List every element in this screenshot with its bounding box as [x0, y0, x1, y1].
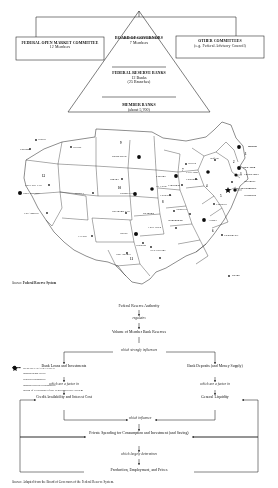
- pyramid-tier-board-of-governors: BOARD OF GOVERNORS 7 Members: [112, 36, 166, 45]
- map-city-pittsburgh: Pittsburgh: [186, 178, 198, 181]
- map-district-12: 12: [42, 174, 45, 178]
- flow-connector-which-largely-determines: which largely determines: [105, 452, 173, 456]
- map-city-denver: Denver: [75, 192, 84, 195]
- map-city-omaha: Omaha: [110, 178, 118, 181]
- map-source-label: Source:: [12, 281, 22, 285]
- map-city-seattle: Seattle: [38, 138, 46, 141]
- flow-node-bank-deposits-money-supply: Bank Deposits (and Money Supply): [181, 364, 249, 369]
- map-city-houston: Houston: [136, 244, 146, 247]
- map-district-3: 3: [240, 172, 242, 176]
- map-district-5: 5: [220, 194, 222, 198]
- map-city-charlotte: Charlotte: [216, 203, 227, 206]
- map-city-san-francisco: San Francisco: [23, 192, 40, 195]
- pyramid-tier-member-banks: MEMBER BANKS (about 5,700): [100, 103, 178, 112]
- textbook-figure-page: FEDERAL OPEN MARKET COMMITTEE 12 Members…: [0, 0, 278, 488]
- federal-reserve-banks-subtitle2: (25 Branches): [105, 80, 173, 85]
- map-city-new-orleans: New Orleans: [150, 249, 165, 252]
- flow-node-federal-reserve-authority: Federal Reserve Authority: [89, 304, 189, 309]
- figure-federal-reserve-structure: FEDERAL OPEN MARKET COMMITTEE 12 Members…: [0, 4, 278, 116]
- other-committees-subtitle: (e.g. Federal Advisory Council): [178, 44, 262, 49]
- figure-federal-reserve-district-map: Boston New York Philadelphia Cleveland R…: [0, 116, 278, 291]
- map-city-detroit: Detroit: [188, 162, 196, 165]
- flow-connector-which-are-a-factor-in-left: which are a factor in: [30, 382, 98, 386]
- map-city-los-angeles: Los Angeles: [24, 212, 39, 215]
- flow-connector-which-influence: which influence: [114, 416, 166, 420]
- map-city-helena: Helena: [73, 146, 81, 149]
- map-district-6: 6: [212, 229, 214, 233]
- map-city-cleveland: Cleveland: [186, 171, 198, 174]
- flow-source-line: Source: Adapted from the Board of Govern…: [12, 480, 114, 484]
- figure-monetary-policy-flowchart: Federal Reserve Authority regulates Volu…: [0, 296, 278, 488]
- flow-node-private-spending: Private Spending for Consumption and Inv…: [84, 431, 194, 436]
- board-of-governors-subtitle: 7 Members: [112, 41, 166, 46]
- us-map-outline: [0, 116, 278, 291]
- map-source-line: Source: Federal Reserve System: [12, 281, 56, 285]
- map-city-jacksonville: Jacksonville: [224, 234, 239, 237]
- map-city-atlanta: Atlanta: [208, 219, 217, 222]
- map-district-7: 7: [182, 168, 184, 172]
- flow-connector-regulates: regulates: [114, 316, 164, 320]
- map-city-boston: Boston: [248, 145, 257, 148]
- map-city-dallas: Dallas: [120, 232, 128, 235]
- map-district-2: 2: [233, 160, 235, 164]
- map-source-text: Federal Reserve System: [23, 281, 56, 285]
- fomc-subtitle: 12 Members: [18, 45, 102, 50]
- pyramid-lines: [0, 4, 278, 116]
- map-city-memphis: Memphis: [143, 212, 154, 215]
- fomc-box: FEDERAL OPEN MARKET COMMITTEE 12 Members: [18, 41, 102, 50]
- map-city-salt-lake-city: Salt Lake City: [25, 184, 42, 187]
- map-city-minneapolis: Minneapolis: [112, 155, 127, 158]
- map-city-oklahoma-city: Oklahoma City: [112, 210, 130, 213]
- flow-source-label: Source:: [12, 480, 22, 484]
- map-city-new-york: New York: [243, 166, 255, 169]
- map-city-buffalo: Buffalo: [210, 157, 219, 160]
- map-city-san-antonio: San Antonio: [116, 253, 131, 256]
- map-city-nashville: Nashville: [176, 208, 187, 211]
- map-city-cincinnati: Cincinnati: [168, 184, 180, 187]
- map-city-philadelphia: Philadelphia: [244, 173, 259, 176]
- map-district-9: 9: [120, 141, 122, 145]
- flow-node-volume-of-member-bank-reserves: Volume of Member Bank Reserves: [79, 330, 199, 335]
- flowchart-arrows: [0, 296, 278, 488]
- map-city-portland: Portland: [20, 148, 30, 151]
- map-district-4: 4: [206, 184, 208, 188]
- flow-node-general-liquidity: General Liquidity: [186, 395, 244, 400]
- federal-reserve-banks-title: FEDERAL RESERVE BANKS: [105, 71, 173, 76]
- map-district-1: 1: [245, 152, 247, 156]
- member-banks-subtitle: (about 5,700): [100, 108, 178, 113]
- map-city-little-rock: Little Rock: [148, 226, 161, 229]
- flow-node-bank-loans-and-investments: Bank Loans and Investments: [30, 364, 98, 369]
- map-district-10: 10: [118, 186, 121, 190]
- map-city-chicago: Chicago: [156, 175, 166, 178]
- flow-source-text: Adapted from the Board of Governors of t…: [23, 480, 114, 484]
- flow-connector-which-are-a-factor-in-right: which are a factor in: [181, 382, 249, 386]
- map-city-richmond: Richmond: [244, 194, 256, 197]
- map-label-washington: WASHINGTON: [236, 187, 256, 190]
- board-of-governors-title: BOARD OF GOVERNORS: [112, 36, 166, 41]
- map-district-11: 11: [130, 257, 133, 261]
- flow-node-credit-availability-and-interest-cost: Credit Availability and Interest Cost: [30, 395, 98, 400]
- map-district-8: 8: [162, 200, 164, 204]
- map-city-miami: Miami: [232, 274, 240, 277]
- flow-connector-which-strongly-influences: which strongly influences: [104, 348, 174, 352]
- pyramid-tier-federal-reserve-banks: FEDERAL RESERVE BANKS 12 Banks (25 Branc…: [105, 71, 173, 85]
- map-city-kansas-city: Kansas City: [120, 192, 134, 195]
- flow-node-production-employment-prices: Production, Employment, and Prices: [86, 468, 192, 473]
- map-city-birmingham: Birmingham: [168, 219, 183, 222]
- map-city-louisville: Louisville: [160, 194, 172, 197]
- map-city-baltimore: Baltimore: [244, 180, 256, 183]
- map-city-st-louis: St. Louis: [156, 185, 167, 188]
- map-city-el-paso: El Paso: [78, 235, 87, 238]
- other-committees-box: OTHER COMMITTEES (e.g. Federal Advisory …: [178, 39, 262, 48]
